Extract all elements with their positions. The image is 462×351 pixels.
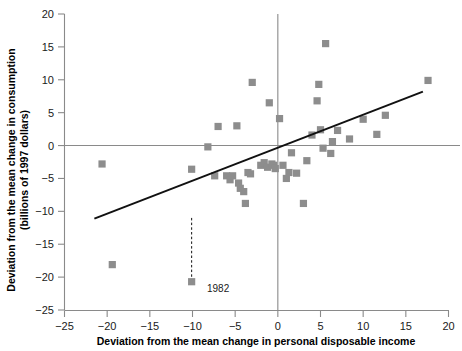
y-tick-label: −20 xyxy=(35,271,54,283)
data-point xyxy=(188,166,195,173)
x-tick-label: −5 xyxy=(229,320,242,332)
x-tick-label: −15 xyxy=(140,320,159,332)
data-point xyxy=(233,122,240,129)
scatter-plot-figure: Deviation from the mean change in consum… xyxy=(0,0,462,351)
annotation-label-1982: 1982 xyxy=(207,283,230,294)
trend-line xyxy=(94,92,423,219)
data-point xyxy=(288,149,295,156)
data-point xyxy=(319,145,326,152)
x-tick-label: −20 xyxy=(98,320,117,332)
data-point xyxy=(424,77,431,84)
data-point-group xyxy=(98,40,431,285)
x-tick-label: −25 xyxy=(55,320,74,332)
data-point xyxy=(346,135,353,142)
data-point xyxy=(285,169,292,176)
x-tick-label: 5 xyxy=(317,320,323,332)
data-point xyxy=(240,188,247,195)
data-point xyxy=(303,157,310,164)
y-tick-label: −10 xyxy=(35,205,54,217)
y-tick-label: −25 xyxy=(35,304,54,316)
x-tick-label: 20 xyxy=(442,320,454,332)
chart-canvas: Deviation from the mean change in consum… xyxy=(0,0,462,351)
y-tick-label: 20 xyxy=(42,8,54,20)
x-tick-label: 10 xyxy=(357,320,369,332)
y-tick-label: −5 xyxy=(41,172,54,184)
data-point xyxy=(242,200,249,207)
regression-trend-line xyxy=(94,92,423,219)
data-point xyxy=(272,165,279,172)
y-axis-ticks: −25−20−15−10−505101520 xyxy=(35,8,64,316)
y-axis-title-line2: (billions of 1997 dollars) xyxy=(18,110,30,230)
data-point xyxy=(109,261,116,268)
data-point xyxy=(327,150,334,157)
data-point xyxy=(204,143,211,150)
data-point xyxy=(249,79,256,86)
y-axis-title: Deviation from the mean change in consum… xyxy=(5,48,30,291)
data-point xyxy=(266,99,273,106)
y-tick-label: 10 xyxy=(42,74,54,86)
data-point xyxy=(98,160,105,167)
x-axis-title: Deviation from the mean change in person… xyxy=(97,335,416,347)
x-tick-label: 0 xyxy=(275,320,281,332)
data-point xyxy=(247,170,254,177)
y-tick-label: 15 xyxy=(42,41,54,53)
data-point xyxy=(315,81,322,88)
x-tick-label: −10 xyxy=(183,320,202,332)
data-point xyxy=(373,131,380,138)
data-point xyxy=(279,162,286,169)
y-tick-label: −15 xyxy=(35,238,54,250)
data-point xyxy=(276,115,283,122)
data-point xyxy=(313,97,320,104)
data-point xyxy=(334,127,341,134)
x-tick-label: 15 xyxy=(400,320,412,332)
y-tick-label: 5 xyxy=(48,107,54,119)
y-tick-label: 0 xyxy=(48,140,54,152)
data-point xyxy=(188,278,195,285)
annotation-group: 1982 xyxy=(192,218,230,294)
data-point xyxy=(229,172,236,179)
data-point xyxy=(293,170,300,177)
data-point xyxy=(329,138,336,145)
data-point xyxy=(382,112,389,119)
data-point xyxy=(300,200,307,207)
y-axis-title-line1: Deviation from the mean change in consum… xyxy=(5,48,17,291)
data-point xyxy=(322,40,329,47)
x-axis-ticks: −25−20−15−10−505101520 xyxy=(55,311,454,333)
data-point xyxy=(215,123,222,130)
